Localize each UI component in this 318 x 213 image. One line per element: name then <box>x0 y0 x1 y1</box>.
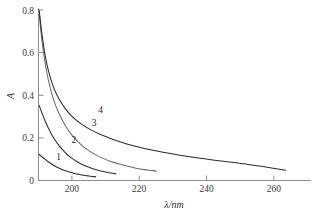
curve-label-1: 1 <box>56 152 61 162</box>
x-tick-label-1: 220 <box>132 184 147 194</box>
curve-label-3: 3 <box>92 118 97 128</box>
y-tick-label-3: 0.6 <box>22 48 34 58</box>
curve-label-4: 4 <box>98 105 103 115</box>
chart-canvas: 0 0.2 0.4 0.6 0.8 200 220 240 260 λ/nm A… <box>0 0 318 213</box>
y-tick-label-0: 0 <box>29 176 34 186</box>
curves-group <box>39 10 286 177</box>
x-axis-ticks <box>72 176 274 181</box>
y-tick-label-2: 0.4 <box>22 91 34 101</box>
curve-labels-group: 1234 <box>56 105 103 161</box>
curve-label-2: 2 <box>71 135 76 145</box>
curve-4 <box>39 10 286 170</box>
x-tick-label-0: 200 <box>65 184 80 194</box>
x-tick-label-3: 260 <box>267 184 282 194</box>
x-tick-label-2: 240 <box>199 184 214 194</box>
curve-1 <box>39 155 96 177</box>
x-axis-tick-labels: 200 220 240 260 <box>65 184 281 194</box>
chart-figure: 0 0.2 0.4 0.6 0.8 200 220 240 260 λ/nm A… <box>0 0 318 213</box>
x-axis-title: λ/nm <box>163 199 183 210</box>
y-tick-label-1: 0.2 <box>22 133 34 143</box>
y-tick-label-4: 0.8 <box>22 6 34 16</box>
y-axis-title: A <box>5 92 16 100</box>
y-axis-tick-labels: 0 0.2 0.4 0.6 0.8 <box>22 6 34 187</box>
